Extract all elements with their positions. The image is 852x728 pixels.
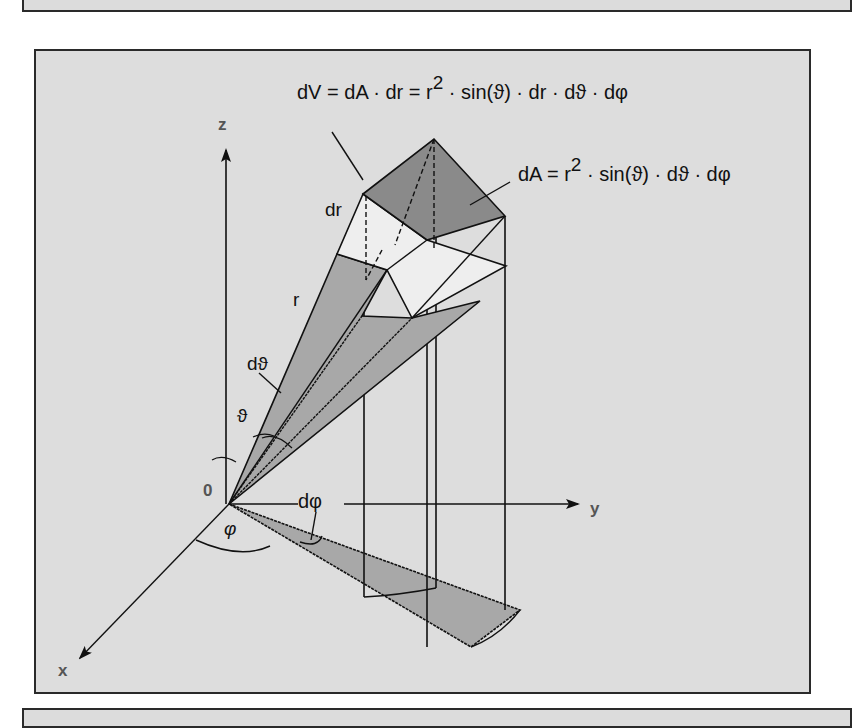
- dV-leader-line: [332, 132, 363, 180]
- next-figure-panel: [22, 708, 852, 728]
- z-axis-label: z: [218, 115, 227, 134]
- y-axis-label: y: [590, 499, 600, 518]
- dtheta-label: dϑ: [247, 353, 269, 374]
- origin-label: 0: [203, 481, 212, 500]
- volume-formula: dV = dA · dr = r2 · sin(ϑ) · dr · dϑ · d…: [297, 72, 628, 103]
- phi-arc: [196, 540, 270, 552]
- theta-label: ϑ: [237, 405, 248, 426]
- dtheta-leader-line: [259, 373, 281, 393]
- r-label: r: [293, 289, 300, 310]
- x-axis-label: x: [58, 661, 68, 680]
- phi-label: φ: [224, 518, 236, 539]
- x-axis: [80, 504, 229, 658]
- dphi-label: dφ: [298, 490, 322, 512]
- xy-projection-wedge: [229, 504, 520, 647]
- area-formula: dA = r2 · sin(ϑ) · dϑ · dφ: [518, 154, 731, 185]
- dr-label: dr: [325, 199, 343, 220]
